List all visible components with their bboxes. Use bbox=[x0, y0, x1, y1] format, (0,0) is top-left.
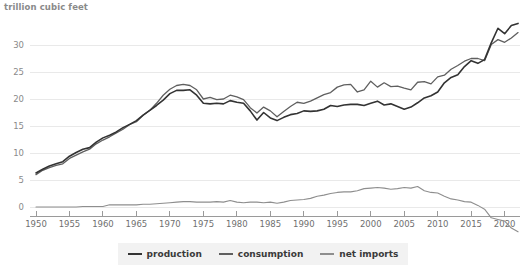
chart-legend: productionconsumptionnet imports bbox=[118, 243, 408, 265]
x-axis-tick-label: 1985 bbox=[260, 219, 282, 229]
gridlines-group bbox=[30, 45, 520, 207]
x-axis-tick-label: 1955 bbox=[59, 219, 81, 229]
chart-container: trillion cubic feet 051015202530 1950195… bbox=[0, 0, 523, 273]
x-axis-tick-label: 1995 bbox=[326, 219, 348, 229]
legend-swatch-icon bbox=[128, 253, 142, 255]
y-axis-tick-label: 15 bbox=[13, 121, 24, 131]
legend-label: consumption bbox=[238, 249, 304, 259]
y-axis-tick-label: 10 bbox=[13, 148, 24, 158]
y-tick-labels-group: 051015202530 bbox=[13, 40, 24, 212]
x-axis-tick-label: 1950 bbox=[25, 219, 47, 229]
x-axis-tick-label: 1990 bbox=[293, 219, 315, 229]
y-axis-tick-label: 20 bbox=[13, 94, 24, 104]
y-axis-tick-label: 5 bbox=[19, 175, 24, 185]
y-axis-tick-label: 30 bbox=[13, 40, 24, 50]
legend-item-production[interactable]: production bbox=[128, 249, 202, 259]
chart-plot-area: 051015202530 195019551960196519701975198… bbox=[0, 0, 523, 273]
x-axis-tick-label: 1965 bbox=[126, 219, 148, 229]
legend-label: net imports bbox=[339, 249, 398, 259]
y-axis-tick-label: 0 bbox=[19, 202, 24, 212]
x-axis-group: 1950195519601965197019751980198519901995… bbox=[25, 211, 520, 229]
y-axis-tick-label: 25 bbox=[13, 67, 24, 77]
x-axis-tick-label: 1980 bbox=[226, 219, 248, 229]
series-line-production bbox=[36, 23, 518, 173]
x-axis-tick-label: 2000 bbox=[360, 219, 382, 229]
x-axis-tick-label: 2005 bbox=[393, 219, 415, 229]
legend-item-consumption[interactable]: consumption bbox=[219, 249, 304, 259]
x-axis-tick-label: 1975 bbox=[193, 219, 215, 229]
x-axis-tick-label: 1970 bbox=[159, 219, 181, 229]
legend-swatch-icon bbox=[320, 253, 334, 255]
legend-item-net-imports[interactable]: net imports bbox=[320, 249, 398, 259]
legend-label: production bbox=[147, 249, 202, 259]
x-axis-tick-label: 2015 bbox=[460, 219, 482, 229]
x-axis-tick-label: 1960 bbox=[92, 219, 114, 229]
legend-swatch-icon bbox=[219, 253, 233, 255]
series-group bbox=[36, 23, 518, 231]
x-axis-tick-label: 2010 bbox=[427, 219, 449, 229]
